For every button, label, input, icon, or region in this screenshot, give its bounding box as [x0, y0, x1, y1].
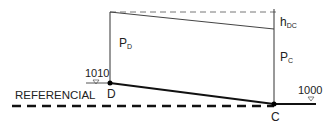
- referencial-label: REFERENCIAL: [15, 89, 96, 101]
- point-c-label: C: [271, 110, 280, 124]
- headloss-label: hDC: [280, 15, 297, 29]
- elevation-c-label: 1000: [298, 84, 322, 96]
- pipe-d-c: [110, 83, 274, 104]
- pressure-d-label: PD: [119, 36, 132, 50]
- point-d-label: D: [107, 87, 116, 101]
- pressure-diagram: 1010 1000 D C REFERENCIAL PD PC hDC: [0, 0, 331, 127]
- elevation-d-label: 1010: [85, 67, 109, 79]
- piezometric-line: [110, 12, 274, 29]
- level-marker-c-icon: [308, 97, 314, 101]
- point-d-marker: [108, 81, 113, 86]
- pressure-c-label: PC: [280, 50, 293, 64]
- point-c-marker: [272, 102, 277, 107]
